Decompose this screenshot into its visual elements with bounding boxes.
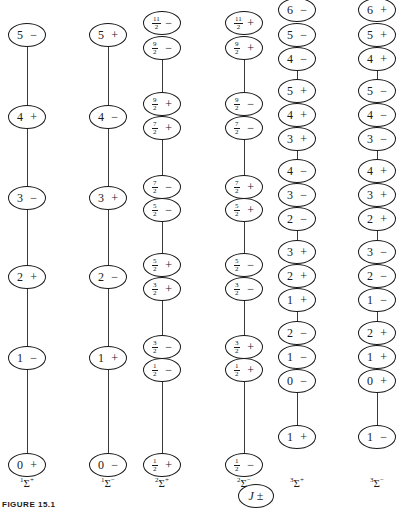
rotational-level-node: 3− <box>358 240 396 264</box>
rotational-level-node: 4+ <box>358 47 396 71</box>
state-term-label: 3Σ− <box>370 476 384 489</box>
parity-sign: + <box>165 259 172 271</box>
rotational-level-node: 4+ <box>8 105 46 129</box>
parity-sign: + <box>247 364 254 376</box>
rotational-level-node: 0− <box>89 453 127 477</box>
parity-sign: − <box>30 352 37 364</box>
parity-sign: + <box>111 29 118 41</box>
j-value: 2 <box>367 270 373 282</box>
parity-sign: − <box>247 122 254 134</box>
parity-sign: + <box>165 459 172 471</box>
j-value: 3 <box>367 246 373 258</box>
rotational-level-node: 5− <box>358 79 396 103</box>
j-value: 5 <box>367 85 373 97</box>
level-connector-line <box>244 370 245 465</box>
j-value: 32 <box>152 340 158 355</box>
parity-sign: − <box>30 29 37 41</box>
j-value: 2 <box>287 270 293 282</box>
j-value: 52 <box>152 258 158 273</box>
parity-sign: − <box>380 270 387 282</box>
j-value: 3 <box>287 133 293 145</box>
j-value: 4 <box>367 109 373 121</box>
j-value: 1 <box>287 431 293 443</box>
rotational-level-node: 12+ <box>225 358 263 382</box>
rotational-level-node: 3− <box>358 127 396 151</box>
rotational-level-node: 2+ <box>278 264 316 288</box>
rotational-level-node: 52+ <box>225 198 263 222</box>
level-connector-line <box>27 35 28 465</box>
parity-sign: − <box>380 85 387 97</box>
j-value: 112 <box>152 16 161 31</box>
j-value: 52 <box>234 258 240 273</box>
j-value: 3 <box>287 246 293 258</box>
parity-sign: + <box>300 294 307 306</box>
rotational-level-node: 72− <box>143 175 181 199</box>
parity-sign: + <box>247 341 254 353</box>
j-value: 52 <box>234 203 240 218</box>
rotational-level-node: 92+ <box>143 92 181 116</box>
rotational-level-node: 32− <box>143 335 181 359</box>
rotational-level-node: 1+ <box>278 425 316 449</box>
parity-sign: − <box>300 4 307 16</box>
rotational-level-node: 3− <box>8 186 46 210</box>
j-value: 52 <box>152 203 158 218</box>
j-value: 1 <box>287 294 293 306</box>
j-value: 4 <box>287 165 293 177</box>
j-value: 72 <box>234 180 240 195</box>
parity-sign: + <box>380 327 387 339</box>
j-value: 1 <box>367 351 373 363</box>
parity-sign: + <box>30 459 37 471</box>
parity-sign: + <box>30 271 37 283</box>
j-value: 2 <box>287 327 293 339</box>
rotational-level-node: 4− <box>89 105 127 129</box>
j-value: 1 <box>98 352 104 364</box>
rotational-level-node: 52− <box>225 253 263 277</box>
rotational-level-node: 12− <box>143 358 181 382</box>
rotational-level-node: 92− <box>225 92 263 116</box>
parity-sign: + <box>247 42 254 54</box>
rotational-level-node: 4− <box>278 159 316 183</box>
rotational-level-node: 1+ <box>278 288 316 312</box>
j-value: 6 <box>367 4 373 16</box>
j-value: 0 <box>367 375 373 387</box>
rotational-level-node: 0+ <box>8 453 46 477</box>
parity-sign: + <box>380 29 387 41</box>
rotational-level-node: 12− <box>225 453 263 477</box>
rotational-level-node: 4+ <box>278 103 316 127</box>
parity-sign: + <box>165 122 172 134</box>
j-value: 12 <box>234 363 240 378</box>
rotational-level-node: 3+ <box>358 183 396 207</box>
level-connector-line <box>162 370 163 465</box>
j-value: 72 <box>152 180 158 195</box>
parity-sign: + <box>165 98 172 110</box>
rotational-level-node: 1− <box>358 425 396 449</box>
rotational-level-node: 72− <box>225 116 263 140</box>
j-value: 4 <box>17 111 23 123</box>
j-value: 6 <box>287 4 293 16</box>
parity-sign: + <box>380 351 387 363</box>
parity-sign: − <box>30 192 37 204</box>
j-value: 1 <box>17 352 23 364</box>
j-value: 2 <box>98 271 104 283</box>
parity-sign: + <box>380 53 387 65</box>
j-value: 32 <box>234 340 240 355</box>
j-value: 92 <box>152 97 158 112</box>
level-connector-line <box>108 35 109 465</box>
j-value: 4 <box>98 111 104 123</box>
j-value: 2 <box>287 213 293 225</box>
rotational-level-node: 5− <box>8 23 46 47</box>
j-value: 32 <box>234 282 240 297</box>
rotational-level-node: 4− <box>358 103 396 127</box>
j-value: 1 <box>367 431 373 443</box>
state-term-label: 1Σ− <box>101 476 115 489</box>
j-value: 72 <box>234 121 240 136</box>
j-value: 4 <box>287 53 293 65</box>
parity-sign: + <box>300 133 307 145</box>
rotational-level-node: 1+ <box>358 345 396 369</box>
parity-sign: − <box>300 189 307 201</box>
parity-sign: + <box>300 246 307 258</box>
j-value: 5 <box>17 29 23 41</box>
j-value: 5 <box>287 29 293 41</box>
rotational-level-node: 52+ <box>143 253 181 277</box>
j-value: 2 <box>367 327 373 339</box>
